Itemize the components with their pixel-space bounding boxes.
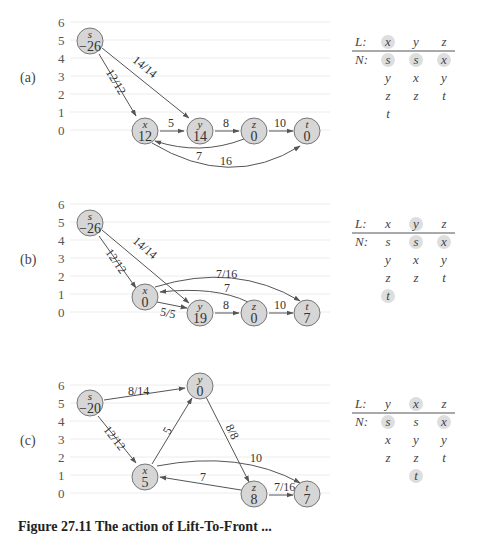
svg-text:z: z: [384, 450, 390, 465]
node-y: y 0: [187, 373, 213, 399]
svg-text:y: y: [411, 432, 419, 447]
panel-c: 6 5 4 3 2 1 0 (c) 8/14 12/12 5 8/8 7/16 …: [20, 373, 455, 507]
svg-text:19: 19: [193, 311, 207, 326]
svg-text:8: 8: [251, 492, 258, 507]
svg-text:t: t: [442, 270, 446, 285]
svg-text:N:: N:: [354, 234, 368, 249]
edge-label-y-z: 8: [223, 116, 229, 130]
node-z: z 0: [241, 118, 267, 144]
svg-text:y: y: [383, 252, 391, 267]
svg-text:s: s: [413, 52, 418, 67]
svg-text:5: 5: [58, 396, 65, 411]
node-z: z 8: [241, 481, 267, 507]
svg-text:x: x: [440, 414, 447, 429]
node-x: x 0: [132, 284, 158, 310]
svg-text:2: 2: [58, 450, 65, 465]
svg-text:x: x: [384, 216, 391, 231]
node-t: t 7: [294, 300, 320, 326]
svg-text:0: 0: [304, 129, 311, 144]
panel-label: (c): [20, 433, 36, 449]
tick-0: 0: [58, 123, 65, 138]
node-s: s −26: [77, 28, 103, 54]
svg-text:x: x: [384, 432, 391, 447]
svg-text:s: s: [385, 234, 390, 249]
svg-text:x: x: [384, 34, 391, 49]
svg-text:y: y: [383, 70, 391, 85]
svg-text:z: z: [440, 216, 446, 231]
node-s: s −26: [77, 210, 103, 236]
svg-text:s: s: [385, 52, 390, 67]
neighbor-table: L: x y z N: s y z t s x z x y t: [352, 216, 455, 303]
svg-text:t: t: [442, 450, 446, 465]
height-axis: 6 5 4 3 2 1 0: [58, 197, 65, 320]
svg-text:4: 4: [58, 414, 65, 429]
svg-text:0: 0: [251, 129, 258, 144]
svg-text:−20: −20: [79, 401, 101, 416]
neighbor-table: L: y x z N: s x z s y z t x y t: [352, 396, 455, 483]
svg-text:6: 6: [58, 197, 65, 212]
edge-label-x-t: 7/16: [216, 267, 237, 281]
tick-4: 4: [58, 51, 65, 66]
edge-label-z-t: 10: [274, 298, 286, 312]
edge-label-z-t: 7/16: [274, 480, 295, 494]
svg-text:t: t: [442, 88, 446, 103]
neighbor-table: L: x y z N: s y z t s x z x y t: [352, 34, 455, 121]
edge-label-z-x: 7: [224, 281, 230, 295]
svg-text:x: x: [412, 396, 419, 411]
node-t: t 7: [294, 481, 320, 507]
svg-text:x: x: [412, 70, 419, 85]
svg-text:3: 3: [58, 432, 65, 447]
node-x: x 5: [132, 464, 158, 490]
edge-label-x-t: 10: [250, 451, 262, 465]
tick-5: 5: [58, 33, 65, 48]
edge-label-z-x: 7: [196, 149, 202, 163]
svg-text:z: z: [412, 88, 418, 103]
node-z: z 0: [241, 300, 267, 326]
svg-text:x: x: [412, 252, 419, 267]
svg-text:y: y: [411, 34, 419, 49]
svg-text:1: 1: [58, 468, 65, 483]
panel-a: 6 5 4 3 2 1 0 (a) 12/12 14/14 5 8 10 7 1…: [20, 15, 455, 168]
edge-label-z-t: 10: [274, 116, 286, 130]
svg-text:z: z: [440, 34, 446, 49]
svg-text:−26: −26: [79, 221, 101, 236]
edge-label-x-y: 5: [168, 116, 174, 130]
svg-text:0: 0: [251, 311, 258, 326]
svg-text:5: 5: [142, 475, 149, 490]
node-y: y 19: [187, 300, 213, 326]
svg-text:14: 14: [193, 129, 207, 144]
edge-label-x-y: 5: [160, 425, 175, 437]
svg-text:L:: L:: [354, 216, 367, 231]
svg-text:0: 0: [58, 486, 65, 501]
edge-label-y-z: 8: [223, 298, 229, 312]
svg-text:0: 0: [58, 305, 65, 320]
edge-label-s-x: 12/12: [103, 246, 130, 276]
svg-text:y: y: [439, 252, 447, 267]
svg-text:−26: −26: [79, 39, 101, 54]
svg-text:s: s: [413, 414, 418, 429]
svg-text:2: 2: [58, 269, 65, 284]
height-axis: 6 5 4 3 2 1 0: [58, 378, 65, 501]
svg-text:0: 0: [142, 295, 149, 310]
svg-text:N:: N:: [354, 414, 368, 429]
svg-text:4: 4: [58, 233, 65, 248]
svg-text:6: 6: [58, 378, 65, 393]
edge-label-x-t: 16: [220, 154, 232, 168]
svg-text:x: x: [440, 52, 447, 67]
panel-label: (b): [20, 252, 37, 268]
node-x: x 12: [132, 118, 158, 144]
svg-text:L:: L:: [354, 396, 367, 411]
neighbors-label: N:: [354, 52, 368, 67]
svg-text:y: y: [439, 432, 447, 447]
node-t: t 0: [294, 118, 320, 144]
edge-label-s-y: 14/14: [130, 53, 160, 81]
svg-text:z: z: [440, 396, 446, 411]
svg-text:z: z: [384, 270, 390, 285]
svg-text:z: z: [412, 270, 418, 285]
node-s: s −20: [77, 390, 103, 416]
list-label: L:: [354, 34, 367, 49]
panel-label: (a): [20, 70, 36, 86]
tick-1: 1: [58, 105, 65, 120]
height-axis: 6 5 4 3 2 1 0: [58, 15, 65, 138]
